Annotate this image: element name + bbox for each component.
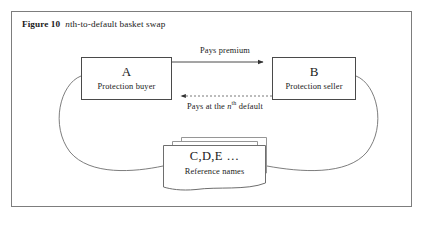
edge-label-pays-at-nth-default: Pays at the nth default [168,101,282,112]
figure-label: Figure 10 [22,19,60,29]
figure-container: Figure 10nth-to-default basket swap [0,0,436,225]
node-protection-seller[interactable]: B Protection seller [272,57,356,100]
node-protection-buyer[interactable]: A Protection buyer [81,57,172,100]
figure-caption: Figure 10nth-to-default basket swap [22,18,165,30]
reference-card-subtitle: Reference names [163,166,266,177]
node-b-title: B [273,64,355,80]
payout-label-pre: Pays at the [187,102,227,111]
node-a-subtitle: Protection buyer [82,81,171,92]
caption-rest: th-to-default basket swap [70,19,165,29]
node-a-title: A [82,64,171,80]
edge-label-pays-premium: Pays premium [180,45,270,56]
figure-caption-text: nth-to-default basket swap [65,19,165,29]
payout-label-post: default [236,102,263,111]
reference-card-labels: C,D,E … Reference names [163,148,266,177]
reference-card-title: C,D,E … [163,148,266,164]
node-b-subtitle: Protection seller [273,81,355,92]
